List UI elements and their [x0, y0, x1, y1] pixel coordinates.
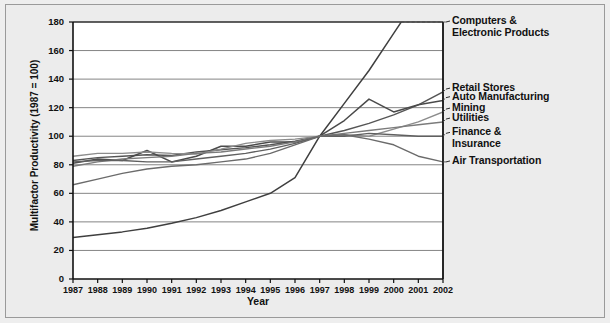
y-tick-label: 80: [40, 159, 64, 170]
leader-tick-6: [446, 161, 450, 162]
plot-background: [73, 22, 443, 279]
leader-tick-5: [446, 132, 450, 133]
y-tick-label: 100: [40, 130, 64, 141]
y-tick-label: 20: [40, 244, 64, 255]
y-tick-label: 160: [40, 45, 64, 56]
legend-label-line2: Electronic Products: [452, 27, 549, 39]
legend-label-6[interactable]: Air Transportation: [452, 155, 541, 167]
legend-label-line1: Utilities: [452, 112, 489, 124]
legend-label-line2: Insurance: [452, 138, 501, 150]
leader-tick-4: [446, 118, 450, 119]
y-tick-label: 140: [40, 73, 64, 84]
chart-figure: 0204060801001201401601801987198819891990…: [0, 0, 610, 323]
leader-tick-0: [446, 21, 450, 22]
x-axis-title: Year: [198, 295, 318, 307]
legend-label-4[interactable]: Utilities: [452, 112, 489, 124]
legend-label-5[interactable]: Finance &Insurance: [452, 126, 501, 149]
leader-tick-1: [446, 88, 450, 89]
y-tick-label: 180: [40, 16, 64, 27]
leader-tick-2: [446, 97, 450, 98]
legend-label-line1: Air Transportation: [452, 155, 541, 167]
y-axis-title: Multifactor Productivity (1987 = 100): [29, 36, 40, 256]
legend-label-0[interactable]: Computers &Electronic Products: [452, 15, 549, 38]
y-tick-label: 0: [40, 273, 64, 284]
y-tick-label: 120: [40, 102, 64, 113]
y-tick-label: 40: [40, 216, 64, 227]
leader-tick-3: [446, 108, 450, 109]
legend-label-line1: Computers &: [452, 15, 549, 27]
y-tick-label: 60: [40, 187, 64, 198]
x-tick-label: 2002: [428, 285, 458, 295]
